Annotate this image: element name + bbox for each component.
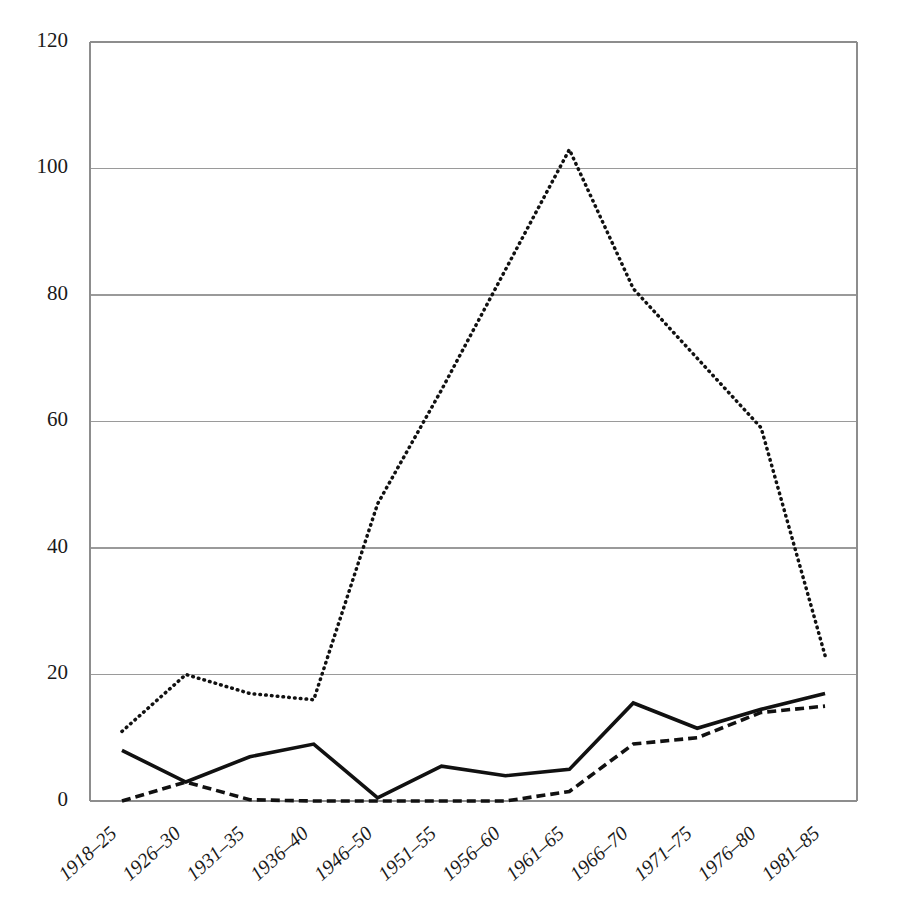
x-axis-tick-label: 1946–50 xyxy=(310,822,377,885)
x-axis-tick-label: 1971–75 xyxy=(629,822,696,885)
x-axis-tick-label: 1966–70 xyxy=(565,822,632,885)
data-series xyxy=(122,150,825,801)
gridlines xyxy=(90,42,857,801)
x-axis-tick-label: 1936–40 xyxy=(246,822,313,885)
y-axis-tick-labels: 020406080100120 xyxy=(37,28,69,811)
x-axis-tick-labels: 1918–251926–301931–351936–401946–501951–… xyxy=(54,822,824,885)
x-axis-tick-label: 1951–55 xyxy=(373,822,440,885)
x-axis-tick-label: 1976–80 xyxy=(693,822,760,885)
y-axis-tick-label: 120 xyxy=(37,28,69,52)
y-axis-tick-label: 0 xyxy=(58,787,69,811)
x-axis-tick-label: 1961–65 xyxy=(501,822,568,885)
y-axis-tick-label: 100 xyxy=(37,154,69,178)
y-axis-tick-label: 40 xyxy=(47,534,68,558)
x-axis-tick-label: 1981–85 xyxy=(757,822,824,885)
series-line-solid xyxy=(122,693,825,797)
line-chart: 020406080100120 1918–251926–301931–35193… xyxy=(0,0,904,911)
y-axis-tick-label: 80 xyxy=(47,281,68,305)
y-axis-tick-label: 20 xyxy=(47,660,68,684)
x-axis-tick-label: 1926–30 xyxy=(118,822,185,885)
x-axis-tick-label: 1931–35 xyxy=(182,822,249,885)
y-axis-tick-label: 60 xyxy=(47,407,68,431)
chart-canvas: 020406080100120 1918–251926–301931–35193… xyxy=(0,0,904,911)
x-axis-tick-label: 1956–60 xyxy=(437,822,504,885)
series-line-dotted xyxy=(122,150,825,732)
x-axis-tick-label: 1918–25 xyxy=(54,822,121,885)
